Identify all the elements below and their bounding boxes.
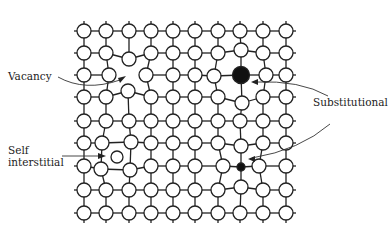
- host-atom: [139, 68, 153, 82]
- host-atom: [99, 24, 113, 38]
- host-atom: [77, 24, 91, 38]
- host-atom: [95, 136, 109, 150]
- host-atom: [188, 90, 202, 104]
- host-atom: [256, 136, 270, 150]
- host-atom: [166, 24, 180, 38]
- host-atom: [144, 90, 158, 104]
- vacancy-label: Vacancy: [7, 70, 52, 82]
- host-atom: [77, 136, 91, 150]
- host-atom: [279, 90, 293, 104]
- host-atom: [279, 24, 293, 38]
- host-atom: [144, 183, 158, 197]
- host-atom: [77, 183, 91, 197]
- host-atom: [99, 90, 113, 104]
- host-atom: [188, 24, 202, 38]
- host-atom: [166, 183, 180, 197]
- host-atom: [234, 139, 248, 153]
- host-atom: [279, 114, 293, 128]
- host-atom: [166, 159, 180, 173]
- host-atom: [279, 183, 293, 197]
- host-atom: [94, 162, 108, 176]
- host-atom: [256, 46, 270, 60]
- host-atom: [122, 183, 136, 197]
- host-atom: [144, 159, 158, 173]
- host-atom: [233, 24, 247, 38]
- host-atom: [121, 84, 135, 98]
- host-atom: [279, 159, 293, 173]
- host-atom: [144, 24, 158, 38]
- host-atom: [211, 90, 225, 104]
- host-atom: [211, 183, 225, 197]
- host-atom: [77, 68, 91, 82]
- host-atom: [77, 114, 91, 128]
- host-atom: [256, 24, 270, 38]
- host-atom: [216, 159, 230, 173]
- host-atom: [99, 46, 113, 60]
- host-atom: [279, 206, 293, 220]
- host-atom: [77, 206, 91, 220]
- host-atom: [122, 206, 136, 220]
- host-atom: [144, 206, 158, 220]
- host-atom: [122, 24, 136, 38]
- host-atom: [166, 90, 180, 104]
- host-atom: [188, 46, 202, 60]
- host-atom: [102, 68, 116, 82]
- host-atom: [188, 114, 202, 128]
- host-atom: [99, 206, 113, 220]
- small-substitutional-atom: [237, 163, 245, 171]
- host-atom: [211, 46, 225, 60]
- host-atom: [256, 114, 270, 128]
- host-atom: [211, 24, 225, 38]
- large-substitutional-atom: [233, 67, 250, 84]
- host-atom: [166, 206, 180, 220]
- substitutional-label: Substitutional: [313, 96, 389, 108]
- host-atom: [256, 183, 270, 197]
- host-atom: [77, 90, 91, 104]
- host-atom: [259, 68, 273, 82]
- host-atom: [279, 46, 293, 60]
- self-interstitial-label-line2: interstitial: [8, 156, 64, 168]
- self-interstitial-atom: [111, 151, 123, 163]
- host-atom: [122, 52, 136, 66]
- host-atom: [188, 159, 202, 173]
- host-atom: [77, 46, 91, 60]
- host-atom: [124, 135, 138, 149]
- host-atom: [99, 114, 113, 128]
- host-atom: [256, 206, 270, 220]
- host-atom: [211, 114, 225, 128]
- host-atom: [166, 46, 180, 60]
- host-atom: [144, 114, 158, 128]
- crystal-lattice-diagram: Vacancy Substitutional Self interstitial: [0, 0, 392, 239]
- host-atom: [188, 136, 202, 150]
- host-atom: [144, 136, 158, 150]
- host-atom: [233, 114, 247, 128]
- host-atom: [233, 206, 247, 220]
- self-interstitial-label-line1: Self: [8, 144, 30, 156]
- host-atom: [166, 68, 180, 82]
- host-atom: [188, 183, 202, 197]
- host-atom: [234, 43, 248, 57]
- host-atom: [166, 114, 180, 128]
- host-atom: [166, 136, 180, 150]
- host-atom: [99, 183, 113, 197]
- host-atom: [188, 68, 202, 82]
- host-atom: [234, 180, 248, 194]
- host-atom: [144, 46, 158, 60]
- host-atom: [211, 136, 225, 150]
- host-atom: [188, 206, 202, 220]
- host-atom: [211, 206, 225, 220]
- host-atom: [123, 163, 137, 177]
- host-atom: [77, 159, 91, 173]
- host-atom: [235, 96, 249, 110]
- host-atom: [279, 68, 293, 82]
- host-atom: [256, 90, 270, 104]
- host-atom: [122, 114, 136, 128]
- host-atom: [207, 69, 221, 83]
